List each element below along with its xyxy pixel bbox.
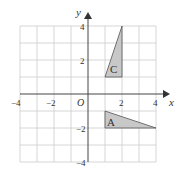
origin-label: O <box>77 97 84 108</box>
coordinate-grid-diagram: C A x y O −4 −2 2 4 4 2 −2 −4 <box>0 0 182 172</box>
x-tick-label: 4 <box>153 98 158 108</box>
axes <box>20 18 164 162</box>
x-tick-label: −2 <box>46 98 56 108</box>
shape-label-a: A <box>107 116 115 128</box>
shape-label-c: C <box>110 63 117 75</box>
x-tick-label: −4 <box>11 98 21 108</box>
y-axis-arrow-icon <box>84 12 92 19</box>
y-tick-label: 2 <box>80 56 85 66</box>
y-axis-label: y <box>75 6 81 18</box>
y-tick-label: 4 <box>80 22 85 32</box>
y-tick-label: −4 <box>76 158 86 168</box>
y-tick-label: −2 <box>76 124 86 134</box>
x-tick-label: 2 <box>119 98 124 108</box>
x-axis-label: x <box>168 96 174 108</box>
